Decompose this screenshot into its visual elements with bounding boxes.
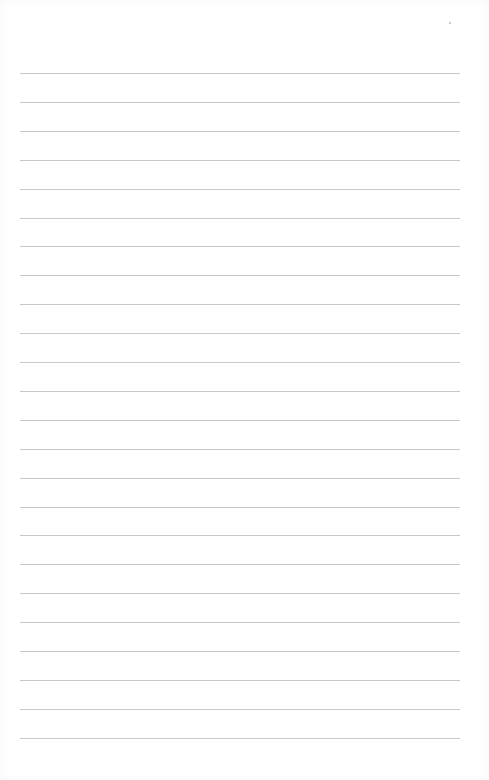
- ruled-line: [20, 651, 460, 652]
- ruled-line: [20, 709, 460, 710]
- ruled-line: [20, 131, 460, 132]
- ruled-line: [20, 304, 460, 305]
- ruled-line: [20, 622, 460, 623]
- ruled-line: [20, 189, 460, 190]
- ruled-line: [20, 362, 460, 363]
- ruled-line: [20, 535, 460, 536]
- ruled-line: [20, 275, 460, 276]
- ruled-line: [20, 246, 460, 247]
- ruled-line: [20, 160, 460, 161]
- ruled-line: [20, 391, 460, 392]
- ruled-line: [20, 478, 460, 479]
- ruled-line: [20, 738, 460, 739]
- ruled-line: [20, 73, 460, 74]
- ruled-line: [20, 564, 460, 565]
- lined-paper-page: [0, 0, 489, 780]
- ruled-line: [20, 680, 460, 681]
- ruled-line: [20, 507, 460, 508]
- ruled-line: [20, 333, 460, 334]
- ruled-line: [20, 102, 460, 103]
- ruled-line: [20, 593, 460, 594]
- ruled-line: [20, 449, 460, 450]
- ruled-line: [20, 420, 460, 421]
- page-mark: [449, 22, 451, 24]
- ruled-line: [20, 218, 460, 219]
